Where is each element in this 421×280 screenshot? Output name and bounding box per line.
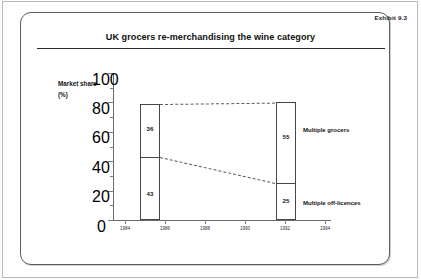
y-tick-label-0-wrap: 0 xyxy=(92,218,106,236)
y-tick-minor-30 xyxy=(110,176,114,177)
y-tick-label-20-wrap: 20 xyxy=(92,188,106,206)
x-tick-1992 xyxy=(285,220,286,224)
y-tick-label-80-wrap: 80 xyxy=(92,100,106,118)
legend-label-multiple-grocers: Multiple grocers xyxy=(303,127,349,133)
x-tick-label-1992: 1992 xyxy=(272,226,298,231)
x-tick-1990 xyxy=(245,220,246,224)
y-tick-minor-70 xyxy=(110,117,114,118)
x-tick-label-1988: 1988 xyxy=(192,226,218,231)
legend-label-multiple-off-licences: Multiple off-licences xyxy=(303,200,361,206)
x-tick-1994 xyxy=(325,220,326,224)
y-tick-label-20: 20 xyxy=(92,188,110,205)
bar-1986-top-value: 36 xyxy=(141,125,159,132)
x-axis-line xyxy=(113,220,331,221)
x-tick-label-1994: 1994 xyxy=(312,226,338,231)
bar-1994-bottom-value: 25 xyxy=(277,197,295,204)
y-tick-minor-90 xyxy=(110,88,114,89)
y-tick-label-40-wrap: 40 xyxy=(92,159,106,177)
bar-1986-bottom-value: 43 xyxy=(141,190,159,197)
y-tick-label-60: 60 xyxy=(92,129,110,146)
x-tick-1988 xyxy=(205,220,206,224)
y-tick-label-0: 0 xyxy=(97,218,106,235)
x-tick-label-1990: 1990 xyxy=(232,226,258,231)
bar-1986-segment-divider xyxy=(140,157,160,158)
bar-1986[interactable]: 36 43 xyxy=(140,104,160,220)
y-tick-label-60-wrap: 60 xyxy=(92,129,106,147)
y-axis-title-line2: (%) xyxy=(58,89,97,100)
dashed-connector-bar-tops xyxy=(160,102,275,104)
bar-1994-top-value: 55 xyxy=(277,133,295,140)
bar-1994-segment-divider xyxy=(276,183,296,184)
y-tick-0 xyxy=(108,220,114,221)
exhibit-page: Exhibit 9.3 UK grocers re-merchandising … xyxy=(0,0,421,280)
x-tick-label-1986: 1986 xyxy=(152,226,178,231)
chart-plot-area: Market share (%) 100 80 60 40 20 0 xyxy=(0,0,421,280)
y-tick-minor-50 xyxy=(110,147,114,148)
x-tick-label-1984: 1984 xyxy=(112,226,138,231)
x-tick-1986 xyxy=(165,220,166,224)
y-tick-label-40: 40 xyxy=(92,159,110,176)
x-tick-1984 xyxy=(125,220,126,224)
y-tick-label-100-wrap: 100 xyxy=(92,71,106,89)
y-tick-label-80: 80 xyxy=(92,100,110,117)
y-tick-label-100: 100 xyxy=(92,71,119,88)
dashed-connector-segment-boundaries xyxy=(160,157,275,184)
bar-1994[interactable]: 55 25 xyxy=(276,102,296,220)
y-tick-minor-10 xyxy=(110,205,114,206)
